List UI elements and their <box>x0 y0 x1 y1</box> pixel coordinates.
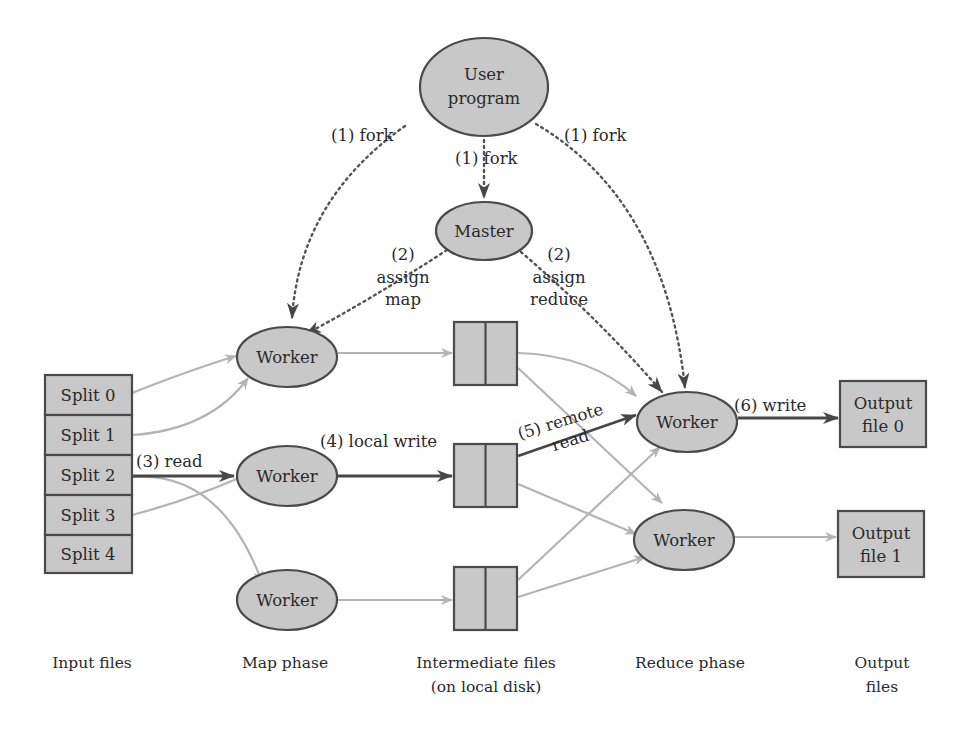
output-file-0-line2: file 0 <box>862 417 904 436</box>
edge-file1-to-reduce1 <box>518 484 636 534</box>
edge-assign-map <box>306 250 447 334</box>
label-local-write: (4) local write <box>320 432 437 451</box>
user-program-node: User program <box>420 38 548 136</box>
master-node: Master <box>436 202 532 260</box>
split-2-label: Split 2 <box>61 466 116 485</box>
label-assign-reduce-line3: reduce <box>530 290 588 309</box>
output-file-0-line1: Output <box>854 394 913 413</box>
split-0-label: Split 0 <box>61 386 116 405</box>
label-read: (3) read <box>136 452 203 471</box>
map-worker-1: Worker <box>237 446 337 506</box>
caption-intermediate-line2: (on local disk) <box>431 678 542 696</box>
input-splits: Split 0 Split 1 Split 2 Split 3 Split 4 <box>45 375 132 573</box>
split-1-label: Split 1 <box>61 426 116 445</box>
label-assign-map-line1: (2) <box>391 245 414 264</box>
map-worker-0: Worker <box>237 327 337 387</box>
reduce-worker-1: Worker <box>634 510 734 570</box>
master-label: Master <box>454 222 514 241</box>
output-file-1-line2: file 1 <box>860 547 902 566</box>
map-worker-2: Worker <box>237 570 337 630</box>
output-file-1-line1: Output <box>852 524 911 543</box>
caption-output-line2: files <box>866 678 898 696</box>
output-file-1: Output file 1 <box>838 511 924 577</box>
label-write: (6) write <box>734 396 806 415</box>
intermediate-file-2 <box>454 567 517 630</box>
reduce-worker-1-label: Worker <box>653 531 714 550</box>
edge-split0-to-worker <box>132 356 236 393</box>
caption-map-phase: Map phase <box>242 654 328 672</box>
output-file-0: Output file 0 <box>840 381 926 447</box>
reduce-worker-0: Worker <box>637 392 737 452</box>
edge-split4-to-worker <box>132 477 262 582</box>
user-program-label-line2: program <box>448 89 521 108</box>
label-assign-map-line3: map <box>385 290 421 309</box>
mapreduce-diagram: User program Master Worker Worker Worker… <box>0 0 967 743</box>
caption-input-files: Input files <box>52 654 132 672</box>
map-worker-2-label: Worker <box>256 591 317 610</box>
edge-file0-to-reduce0 <box>518 353 636 396</box>
label-fork-left: (1) fork <box>331 126 395 145</box>
label-assign-reduce-line2: assign <box>532 268 586 287</box>
map-worker-0-label: Worker <box>256 348 317 367</box>
edge-split3-to-worker <box>132 474 248 515</box>
intermediate-file-1 <box>454 444 517 507</box>
reduce-worker-0-label: Worker <box>656 413 717 432</box>
caption-reduce-phase: Reduce phase <box>635 654 745 672</box>
label-fork-center: (1) fork <box>455 149 519 168</box>
split-3-label: Split 3 <box>61 506 116 525</box>
split-4-label: Split 4 <box>61 545 116 564</box>
label-assign-reduce-line1: (2) <box>547 245 570 264</box>
map-worker-1-label: Worker <box>256 467 317 486</box>
phase-captions: Input files Map phase Intermediate files… <box>52 654 910 696</box>
caption-intermediate-line1: Intermediate files <box>416 654 556 672</box>
intermediate-file-0 <box>454 322 517 385</box>
label-fork-right: (1) fork <box>564 126 628 145</box>
caption-output-line1: Output <box>854 654 910 672</box>
user-program-label-line1: User <box>464 65 504 84</box>
label-assign-map-line2: assign <box>376 268 430 287</box>
